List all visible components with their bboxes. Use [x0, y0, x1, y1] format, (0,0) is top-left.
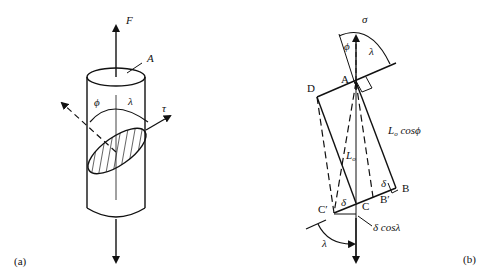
- force-label: F: [125, 14, 133, 26]
- point-B-label: B: [402, 182, 409, 194]
- lambda-label-bottom: λ: [321, 237, 327, 249]
- slip-geometry-diagram: F A ϕ λ τ (a): [0, 0, 488, 274]
- delta-label-C: δ: [341, 196, 347, 208]
- delta-label-B: δ: [381, 177, 387, 189]
- dashed-AB-prime: [356, 82, 373, 197]
- l0-label: Lo: [345, 149, 356, 163]
- l0-cos-phi-label: Lo cosϕ: [387, 124, 421, 138]
- dashed-DC-prime: [317, 97, 334, 213]
- area-label: A: [146, 52, 154, 64]
- panel-b-label: (b): [463, 253, 476, 266]
- cylinder-bottom-edge: [87, 208, 145, 217]
- delta-cos-lambda-label: δ cosλ: [373, 221, 401, 233]
- phi-label: ϕ: [94, 96, 100, 108]
- bottom-plane-line: [306, 220, 326, 229]
- point-D-label: D: [307, 82, 315, 94]
- tau-label: τ: [162, 102, 167, 114]
- sigma-label: σ: [362, 13, 368, 25]
- point-B-prime-label: B′: [380, 193, 390, 205]
- panel-a-label: (a): [14, 255, 27, 268]
- angle-arc: [90, 109, 148, 122]
- point-C-label: C: [362, 200, 369, 212]
- lambda-label-top: λ: [368, 45, 374, 57]
- point-C-prime-label: C′: [318, 203, 328, 215]
- delta-cos-lambda-leader: [358, 216, 372, 226]
- point-A-label: A: [341, 73, 349, 85]
- shear-stress-arrow: [146, 116, 170, 130]
- phi-label-b: ϕ: [344, 40, 350, 52]
- lambda-label: λ: [127, 95, 133, 107]
- right-angle-mark-B: [388, 183, 398, 193]
